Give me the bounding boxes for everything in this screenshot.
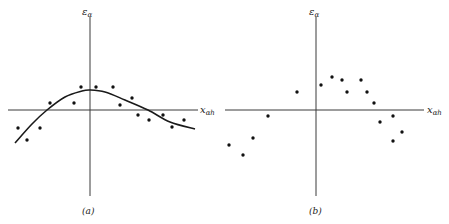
x-axis-label-a: xαh [200,104,215,117]
x-axis-label-b: xαh [427,104,442,117]
data-point [345,90,348,93]
panel-a: εα xαh (a) [8,6,215,216]
data-point [111,85,114,88]
data-point [170,125,173,128]
data-point [94,85,97,88]
data-point [130,96,133,99]
data-point [16,126,19,129]
data-point [48,101,51,104]
data-point [182,118,185,121]
data-point [241,153,244,156]
data-point [147,118,150,121]
data-point [359,78,362,81]
data-point [365,90,368,93]
data-point [251,136,254,139]
y-axis-label-a: εα [82,6,92,19]
y-axis-label-b: εα [309,6,319,19]
caption-a: (a) [82,206,95,216]
data-point [38,126,41,129]
data-point [25,138,28,141]
panel-b: εα xαh (b) [225,6,442,216]
data-point [372,101,375,104]
data-point [72,101,75,104]
data-point [136,113,139,116]
data-point [391,139,394,142]
caption-b: (b) [309,206,322,216]
data-point [227,143,230,146]
data-point [295,90,298,93]
data-point [340,78,343,81]
data-point [330,75,333,78]
fitted-curve [15,90,195,143]
data-point [161,113,164,116]
data-point [79,85,82,88]
data-point [391,114,394,117]
data-point [118,103,121,106]
data-point [378,120,381,123]
figure: εα xαh (a) εα xαh (b) [0,0,449,224]
data-point [400,130,403,133]
data-point [266,114,269,117]
data-point [319,83,322,86]
